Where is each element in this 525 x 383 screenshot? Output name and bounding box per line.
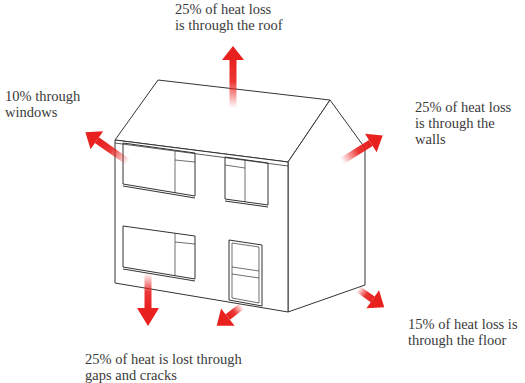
label-roof-line-1: 25% of heat loss <box>175 1 283 17</box>
label-floor-line-2: through the floor <box>408 332 518 348</box>
label-walls-line-2: is through the <box>415 115 511 131</box>
house <box>115 80 365 312</box>
label-floor-line-1: 15% of heat loss is <box>408 316 518 332</box>
label-gaps: 25% of heat is lost through gaps and cra… <box>85 351 242 383</box>
label-windows: 10% through windows <box>5 88 80 120</box>
label-gaps-line-2: gaps and cracks <box>85 367 242 383</box>
label-roof: 25% of heat loss is through the roof <box>175 1 283 33</box>
label-walls: 25% of heat loss is through the walls <box>415 99 511 147</box>
label-gaps-line-1: 25% of heat is lost through <box>85 351 242 367</box>
label-windows-line-2: windows <box>5 104 80 120</box>
label-walls-line-1: 25% of heat loss <box>415 99 511 115</box>
label-walls-line-3: walls <box>415 131 511 147</box>
label-roof-line-2: is through the roof <box>175 17 283 33</box>
label-floor: 15% of heat loss is through the floor <box>408 316 518 348</box>
label-windows-line-1: 10% through <box>5 88 80 104</box>
